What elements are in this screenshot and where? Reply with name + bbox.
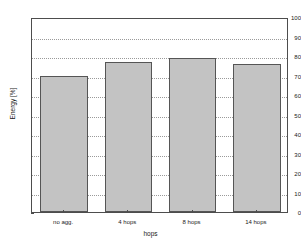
y-axis-label: Energy [%] — [9, 64, 16, 144]
x-axis-tick-label: 8 hops — [162, 219, 222, 226]
x-axis-label: hops — [0, 230, 301, 237]
gridline — [32, 58, 287, 59]
x-axis-tick-label: 4 hops — [97, 219, 157, 226]
bar — [169, 58, 217, 212]
x-axis-tick-mark — [256, 210, 257, 213]
bar — [40, 76, 88, 213]
x-axis-tick-label: 14 hops — [226, 219, 286, 226]
bar — [233, 64, 281, 212]
x-axis-tick-mark — [127, 210, 128, 213]
x-axis-tick-label: no agg. — [33, 219, 93, 226]
gridline — [32, 39, 287, 40]
x-axis-tick-mark — [192, 210, 193, 213]
figure: 0102030405060708090100 Energy [%] no agg… — [0, 0, 301, 249]
bar — [105, 62, 153, 212]
x-axis-tick-mark — [63, 210, 64, 213]
plot-area — [31, 18, 288, 213]
y-axis-tick-mark — [31, 213, 34, 214]
